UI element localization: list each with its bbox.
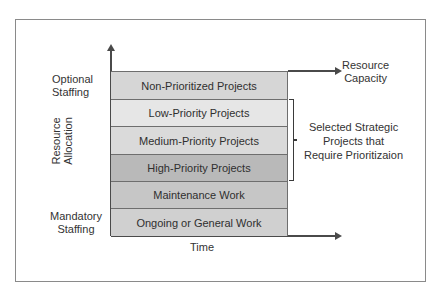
band-ongoing: Ongoing or General Work [111,208,287,236]
band-label: Maintenance Work [153,189,245,201]
band-high-priority: High-Priority Projects [111,154,287,181]
x-axis-arrow-icon [335,232,342,240]
y-axis-arrow-icon [107,44,115,51]
band-low-priority: Low-Priority Projects [111,99,287,126]
band-maintenance: Maintenance Work [111,181,287,208]
mandatory-staffing-label: Mandatory Staffing [50,210,102,236]
band-label: Low-Priority Projects [149,107,250,119]
capacity-label-line1: Resource [342,59,389,72]
bracket-label-line2: Projects that [304,134,403,148]
band-label: Ongoing or General Work [136,217,261,229]
capacity-line [288,70,336,72]
x-axis-label: Time [190,241,214,254]
resource-stack: Non-Prioritized Projects Low-Priority Pr… [111,71,288,236]
bracket-label: Selected Strategic Projects that Require… [304,120,403,162]
optional-label-line2: Staffing [52,86,93,99]
mandatory-label-line2: Staffing [50,223,102,236]
band-label: Non-Prioritized Projects [141,80,257,92]
bracket-label-line3: Require Prioritizaion [304,148,403,162]
band-label: Medium-Priority Projects [139,135,259,147]
mandatory-label-line1: Mandatory [50,210,102,223]
band-medium-priority: Medium-Priority Projects [111,126,287,154]
y-axis-label: Resource Allocation [50,101,74,181]
band-label: High-Priority Projects [147,162,250,174]
y-axis-label-line2: Allocation [62,101,74,181]
bracket-tick [294,139,297,141]
band-non-prioritized: Non-Prioritized Projects [111,71,287,99]
optional-label-line1: Optional [52,73,93,86]
resource-capacity-label: Resource Capacity [342,59,389,85]
capacity-arrow-icon [335,67,342,75]
capacity-label-line2: Capacity [342,72,389,85]
optional-staffing-label: Optional Staffing [52,73,93,99]
y-axis-label-line1: Resource [50,101,62,181]
bracket-label-line1: Selected Strategic [304,120,403,134]
